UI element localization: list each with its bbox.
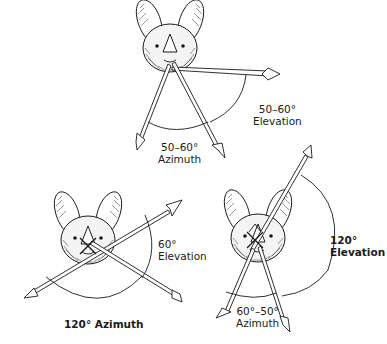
top-azimuth-label: 50–60° Azimuth bbox=[158, 141, 201, 165]
bottom-right-azimuth-label: 60°–50° Azimuth bbox=[236, 305, 279, 329]
bottom-right-azimuth-caption: Azimuth bbox=[236, 317, 279, 329]
azimuth-arc bbox=[46, 276, 142, 298]
elevation-arc bbox=[210, 75, 246, 122]
top-elevation-caption: Elevation bbox=[253, 115, 302, 127]
bottom-left-elevation-caption: Elevation bbox=[158, 250, 207, 262]
bottom-right-elevation-value: 120° bbox=[330, 234, 385, 246]
bottom-left-azimuth-label: 120° Azimuth bbox=[64, 318, 144, 330]
azimuth-arc bbox=[148, 122, 208, 130]
top-elevation-value: 50–60° bbox=[253, 103, 302, 115]
panel-bottom-right bbox=[216, 145, 335, 332]
bottom-right-azimuth-value: 60°–50° bbox=[236, 305, 279, 317]
bottom-right-elevation-caption: Elevation bbox=[330, 246, 385, 258]
bottom-left-elevation-value: 60° bbox=[158, 238, 207, 250]
bat-beam-diagram bbox=[0, 0, 387, 344]
panel-top bbox=[136, 0, 280, 158]
bottom-left-elevation-label: 60° Elevation bbox=[158, 238, 207, 262]
bat-head-icon bbox=[136, 0, 203, 72]
beam-arrow-elevation bbox=[172, 67, 280, 80]
bottom-right-elevation-label: 120° Elevation bbox=[330, 234, 385, 258]
top-azimuth-caption: Azimuth bbox=[158, 153, 201, 165]
beam-arrow-azimuth-left bbox=[136, 64, 171, 150]
top-azimuth-value: 50–60° bbox=[158, 141, 201, 153]
top-elevation-label: 50–60° Elevation bbox=[253, 103, 302, 127]
